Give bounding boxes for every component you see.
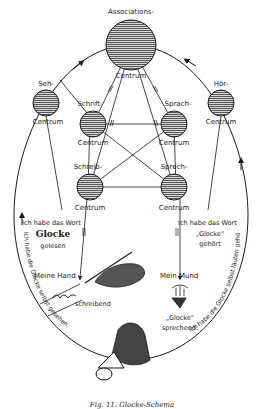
schrift-centrum-circle xyxy=(80,111,106,137)
seh-label: Seh- xyxy=(38,80,54,88)
arc-arrow-left xyxy=(72,62,82,70)
right-word-glocke: „Glocke“ xyxy=(196,230,224,238)
schreib-label: Schreib- xyxy=(74,163,103,171)
speaking-mouth-illustration xyxy=(172,285,188,308)
mouth-word: „Glocke“ xyxy=(166,314,194,322)
mouth-label: Mein Mund xyxy=(160,272,198,280)
associations-centrum-label: Centrum xyxy=(116,72,147,80)
hoer-label: Hör- xyxy=(214,80,229,88)
sprach-centrum-circle xyxy=(161,111,187,137)
mouth-action: sprechend. xyxy=(162,324,198,332)
left-word-line1: Ich habe das Wort xyxy=(22,219,81,227)
figure-caption: Fig. 11. Glocke-Schema xyxy=(90,401,174,409)
arc-arrow-right xyxy=(186,60,196,66)
right-word-gehoert: gehört xyxy=(199,240,220,248)
sprech-centrum-label: Centrum xyxy=(159,204,190,212)
left-word-gelesen: gelesen xyxy=(40,242,65,250)
seh-centrum-circle xyxy=(33,90,59,116)
associations-label: Associations- xyxy=(108,8,154,16)
hoer-centrum-circle xyxy=(208,90,234,116)
right-word-line1: Ich habe das Wort xyxy=(178,219,237,227)
sprach-label: Sprach- xyxy=(165,100,192,108)
hand-action: schreibend xyxy=(75,300,111,308)
seh-centrum-label: Centrum xyxy=(33,118,64,126)
schrift-centrum-label: Centrum xyxy=(78,139,109,147)
hand-bell-illustration xyxy=(96,323,150,380)
hand-label: Meine Hand xyxy=(34,272,76,280)
connection-lines xyxy=(46,46,221,278)
schreib-centrum-circle xyxy=(77,174,103,200)
sprach-centrum-label: Centrum xyxy=(159,139,190,147)
associations-centrum-circle xyxy=(106,20,156,70)
sprech-centrum-circle xyxy=(161,174,187,200)
schrift-label: Schrift- xyxy=(77,100,102,108)
sprech-label: Sprech- xyxy=(161,163,188,171)
hoer-centrum-label: Centrum xyxy=(206,118,237,126)
schreib-centrum-label: Centrum xyxy=(75,204,106,212)
left-word-glocke: Glocke xyxy=(36,230,71,238)
